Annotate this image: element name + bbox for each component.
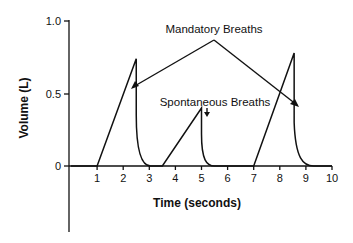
arrowhead-icon	[204, 112, 210, 117]
y-axis-title: Volume (L)	[17, 77, 31, 138]
y-tick-label: 0	[55, 160, 61, 172]
y-tick-label: 1.0	[46, 15, 61, 27]
x-ticks: 12345678910	[94, 166, 338, 184]
x-tick-label: 8	[277, 172, 283, 184]
x-tick-label: 2	[120, 172, 126, 184]
x-tick-label: 7	[251, 172, 257, 184]
x-tick-label: 10	[326, 172, 338, 184]
x-tick-label: 3	[146, 172, 152, 184]
x-tick-label: 1	[94, 172, 100, 184]
spontaneous-breaths-label: Spontaneous Breaths	[160, 96, 271, 108]
volume-time-chart: 1.0 0.5 0 12345678910 Volume (L) Time (s…	[0, 0, 353, 243]
mandatory-breaths-label: Mandatory Breaths	[165, 23, 262, 35]
mandatory-arrow-left	[133, 40, 214, 87]
x-tick-label: 6	[225, 172, 231, 184]
y-tick-label: 0.5	[46, 88, 61, 100]
x-tick-label: 9	[303, 172, 309, 184]
volume-curve	[71, 53, 332, 166]
x-axis-title: Time (seconds)	[153, 196, 241, 210]
arrowhead-icon	[131, 81, 139, 89]
x-tick-label: 4	[172, 172, 178, 184]
x-tick-label: 5	[198, 172, 204, 184]
